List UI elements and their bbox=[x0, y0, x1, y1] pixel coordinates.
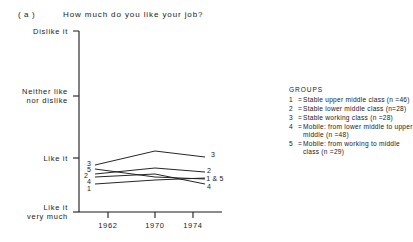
series-line-3 bbox=[95, 151, 205, 165]
y-axis-spine bbox=[73, 31, 79, 212]
x-tick-label-1962: 1962 bbox=[98, 221, 118, 230]
y-tick-label-neutral: Neither like nor dislike bbox=[0, 87, 68, 105]
y-tick-label-dislike: Dislike it bbox=[0, 27, 68, 36]
series-lines bbox=[95, 151, 205, 184]
legend-text-3: Stable working class (n =28) bbox=[303, 114, 413, 122]
figure-panel: ( a ) How much do you like your job? bbox=[0, 0, 413, 242]
series-end-label-right-4: 4 bbox=[207, 183, 211, 190]
legend: GROUPS 1 = Stable upper middle class (n … bbox=[289, 86, 413, 157]
x-tick-label-1970: 1970 bbox=[145, 221, 165, 230]
legend-key-5: 5 bbox=[289, 140, 297, 148]
legend-key-1: 1 bbox=[289, 96, 297, 104]
legend-key-3: 3 bbox=[289, 114, 297, 122]
legend-item-5: 5 = Mobile: from working to middle class… bbox=[289, 140, 413, 157]
series-end-label-right-1-and-5: 1 & 5 bbox=[206, 175, 223, 182]
legend-item-1: 1 = Stable upper middle class (n =46) bbox=[289, 96, 413, 104]
legend-item-2: 2 = Stable lower middle class (n=28) bbox=[289, 105, 413, 113]
legend-text-5: Mobile: from working to middle class (n … bbox=[303, 140, 413, 157]
y-tick-label-like-very-much: Like it very much bbox=[0, 203, 68, 221]
y-axis-ticks bbox=[73, 96, 79, 212]
series-end-label-right-3: 3 bbox=[211, 151, 215, 158]
legend-item-4: 4 = Mobile: from lower middle to upper m… bbox=[289, 123, 413, 140]
x-tick-label-1974: 1974 bbox=[183, 221, 203, 230]
legend-heading: GROUPS bbox=[289, 86, 413, 94]
legend-text-4: Mobile: from lower middle to upper middl… bbox=[303, 123, 413, 140]
legend-key-4: 4 bbox=[289, 123, 297, 131]
legend-item-3: 3 = Stable working class (n =28) bbox=[289, 114, 413, 122]
series-end-label-left-4: 4 bbox=[87, 178, 91, 185]
x-axis-ticks bbox=[108, 212, 193, 218]
legend-text-1: Stable upper middle class (n =46) bbox=[303, 96, 413, 104]
legend-text-2: Stable lower middle class (n=28) bbox=[303, 105, 413, 113]
legend-key-2: 2 bbox=[289, 105, 297, 113]
series-end-label-right-2: 2 bbox=[207, 167, 211, 174]
series-end-label-left-1: 1 bbox=[87, 185, 91, 192]
y-tick-label-like: Like it bbox=[0, 154, 68, 163]
